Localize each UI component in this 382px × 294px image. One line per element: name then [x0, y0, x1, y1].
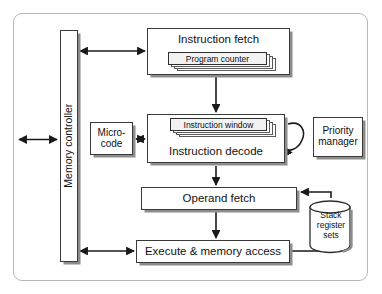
- block-memory-controller: Memory controller: [60, 30, 78, 262]
- block-operand-fetch: Operand fetch: [141, 187, 297, 210]
- stack-register-sets-label: Stack register sets: [307, 210, 355, 240]
- card-instruction-window: Instruction window: [170, 118, 276, 137]
- arrow-priority-loop: [286, 123, 303, 150]
- instruction-decode-label: Instruction decode: [169, 145, 263, 157]
- instruction-window-label: Instruction window: [184, 120, 254, 130]
- block-execute-memory-access: Execute & memory access: [136, 240, 290, 263]
- micro-code-label-line1: Micro-: [98, 128, 126, 139]
- stack-sheet-front: Instruction window: [170, 118, 267, 131]
- block-stack-register-sets: Stack register sets: [307, 198, 355, 254]
- stack-register-sets-label-line2: register: [307, 220, 355, 230]
- memory-controller-label: Memory controller: [63, 104, 74, 188]
- operand-fetch-label: Operand fetch: [183, 192, 256, 204]
- stack-register-sets-label-line1: Stack: [307, 210, 355, 220]
- cpu-pipeline-diagram: Memory controller Instruction fetch Prog…: [0, 0, 382, 294]
- block-micro-code: Micro- code: [90, 122, 133, 155]
- stack-sheet-front: Program counter: [168, 52, 267, 65]
- instruction-fetch-label: Instruction fetch: [178, 33, 259, 45]
- priority-manager-label-line2: manager: [318, 137, 357, 148]
- program-counter-label: Program counter: [186, 54, 249, 64]
- stack-register-sets-label-line3: sets: [307, 230, 355, 240]
- block-priority-manager: Priority manager: [313, 117, 363, 157]
- execute-memory-access-label: Execute & memory access: [145, 245, 281, 257]
- micro-code-label-line2: code: [101, 139, 123, 150]
- card-program-counter: Program counter: [168, 52, 276, 71]
